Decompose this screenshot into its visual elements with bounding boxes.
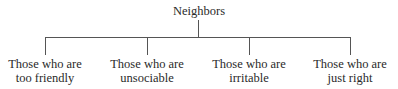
child-connector-3 [249,37,250,55]
child-node-unsociable: Those who are unsociable [97,58,197,85]
child-node-line1: Those who are [300,58,398,72]
root-connector [198,20,199,37]
child-node-just-right: Those who are just right [300,58,398,85]
child-connector-1 [45,37,46,55]
horizontal-connector [45,37,351,38]
child-node-line1: Those who are [97,58,197,72]
child-node-line2: unsociable [97,72,197,86]
child-node-line2: too friendly [0,72,95,86]
child-node-too-friendly: Those who are too friendly [0,58,95,85]
child-node-line1: Those who are [199,58,299,72]
child-connector-4 [350,37,351,55]
child-node-irritable: Those who are irritable [199,58,299,85]
root-node-label: Neighbors [0,4,398,18]
child-node-line2: irritable [199,72,299,86]
child-node-line1: Those who are [0,58,95,72]
child-connector-2 [147,37,148,55]
child-node-line2: just right [300,72,398,86]
